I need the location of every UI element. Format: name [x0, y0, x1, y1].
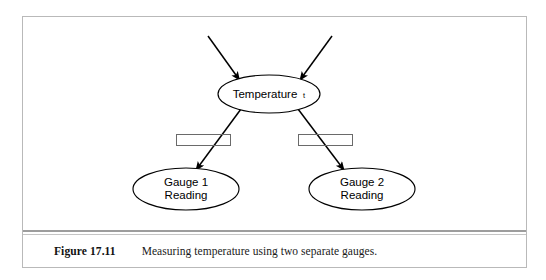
node-gauge2-label-line2: Reading [341, 189, 384, 201]
edge-temperature-to-gauge2 [298, 109, 344, 170]
figure-page: Temperature t Gauge 1 Reading Gauge 2 Re… [0, 0, 546, 280]
figure-frame [23, 17, 527, 268]
edge-temperature-to-gauge1 [196, 109, 241, 170]
gate-box-left [177, 135, 231, 146]
node-temperature-label: Temperature [233, 88, 298, 100]
node-gauge1-label-line1: Gauge 1 [164, 176, 208, 188]
edge-incoming-left [208, 36, 240, 80]
node-gauge2-label-line1: Gauge 2 [340, 176, 384, 188]
figure-caption-number: Figure 17.11 [54, 245, 116, 257]
gate-box-right [299, 135, 353, 146]
node-gauge1-label-line2: Reading [165, 189, 208, 201]
figure-caption: Figure 17.11 Measuring temperature using… [22, 240, 527, 262]
edge-incoming-right [300, 36, 332, 80]
figure-caption-text: Measuring temperature using two separate… [142, 245, 378, 257]
figure-diagram: Temperature t Gauge 1 Reading Gauge 2 Re… [0, 0, 546, 280]
